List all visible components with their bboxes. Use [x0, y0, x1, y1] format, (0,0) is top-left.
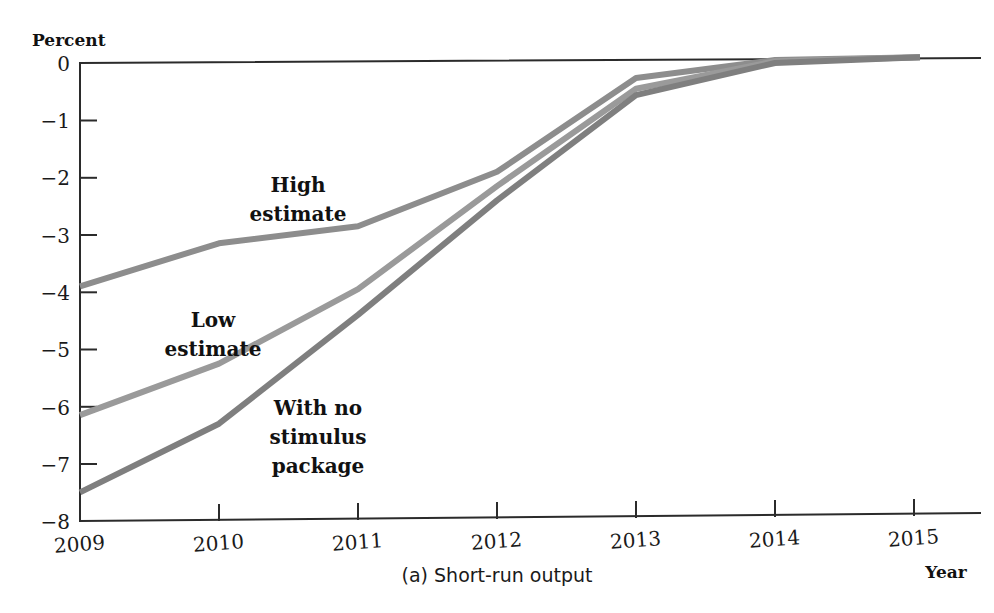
figure-caption: (a) Short-run output: [402, 564, 593, 586]
x-axis-tick-marks: [219, 499, 914, 521]
series-annotation-high-estimate: High estimate: [250, 173, 347, 226]
x-tick-label-2015: 2015: [887, 524, 939, 551]
series-label-high-estimate-line1: High: [270, 173, 325, 197]
y-tick-label-7: −7: [41, 453, 70, 477]
y-axis-tick-labels: 0 −1 −2 −3 −4 −5 −6 −7 −8: [41, 52, 70, 534]
series-line-no-stimulus: [80, 57, 920, 492]
series-label-low-estimate-line2: estimate: [165, 337, 262, 361]
x-tick-label-2011: 2011: [331, 528, 383, 555]
y-tick-label-4: −4: [41, 281, 70, 305]
y-tick-label-3: −3: [41, 224, 70, 248]
series-label-no-stimulus-line2: stimulus: [269, 425, 366, 449]
x-axis-baseline: [80, 513, 980, 521]
y-tick-label-6: −6: [41, 396, 70, 420]
y-tick-label-2: −2: [41, 166, 70, 190]
y-tick-label-8: −8: [41, 510, 70, 534]
x-tick-label-2014: 2014: [748, 525, 800, 552]
y-tick-label-1: −1: [41, 109, 70, 133]
chart-svg: Percent 0 −1 −2 −3 −4 −5 −6 −7 −8: [0, 0, 994, 613]
y-axis-title: Percent: [32, 30, 106, 50]
series-line-low-estimate: [80, 57, 920, 415]
x-tick-label-2013: 2013: [609, 526, 661, 553]
series-label-high-estimate-line2: estimate: [250, 202, 347, 226]
short-run-output-figure: Percent 0 −1 −2 −3 −4 −5 −6 −7 −8: [0, 0, 994, 613]
y-tick-label-0: 0: [57, 52, 70, 76]
series-label-low-estimate-line1: Low: [191, 308, 236, 332]
series-label-no-stimulus-line1: With no: [273, 396, 362, 420]
x-axis-title: Year: [924, 562, 967, 582]
x-axis-tick-labels: 2009 2010 2011 2012 2013 2014 2015: [53, 524, 939, 557]
x-tick-label-2009: 2009: [53, 530, 105, 557]
y-tick-label-5: −5: [41, 338, 70, 362]
x-tick-label-2012: 2012: [470, 527, 522, 554]
series-label-no-stimulus-line3: package: [272, 454, 365, 478]
x-tick-label-2010: 2010: [192, 529, 244, 556]
series-line-high-estimate: [80, 57, 920, 286]
series-annotation-low-estimate: Low estimate: [165, 308, 262, 361]
series-annotation-no-stimulus: With no stimulus package: [269, 396, 366, 478]
